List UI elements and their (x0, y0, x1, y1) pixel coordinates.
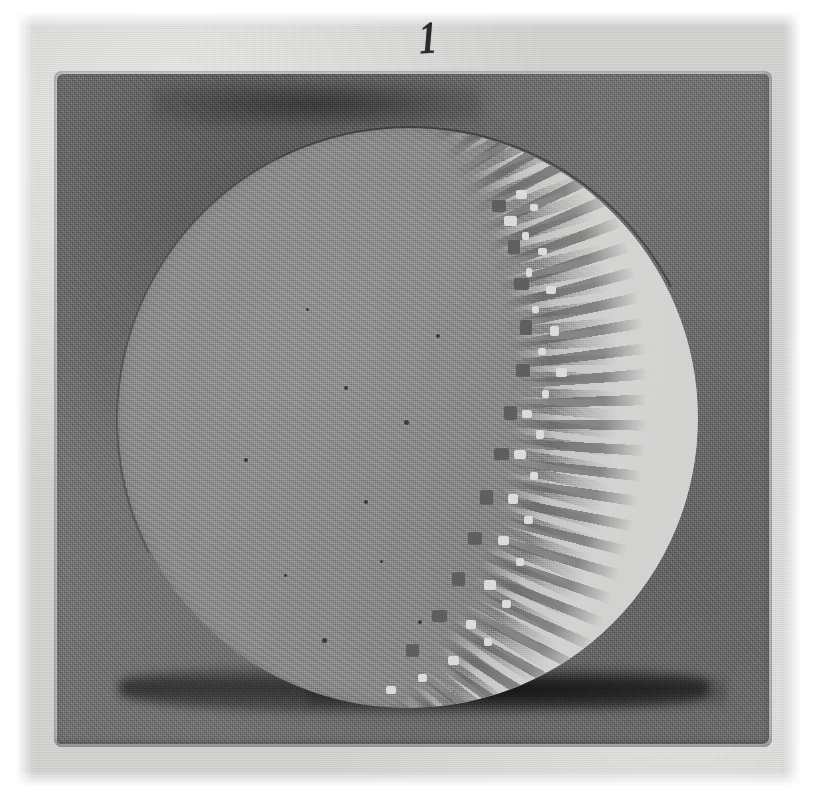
disc-dark-speck (404, 420, 409, 425)
disc-dark-speck (284, 574, 287, 577)
terminator-bright-fleck (516, 190, 527, 199)
terminator-dark-fleck (492, 200, 506, 212)
disc-dark-speck (244, 458, 248, 462)
disc-bright-crescent (118, 128, 698, 708)
disc-terminator-speckle-inner (118, 128, 698, 708)
terminator-bright-fleck (448, 656, 459, 665)
terminator-bright-fleck (522, 232, 529, 240)
terminator-dark-fleck (406, 644, 419, 657)
terminator-bright-fleck (556, 368, 567, 377)
terminator-dark-fleck (520, 320, 532, 335)
terminator-bright-fleck (484, 638, 492, 646)
disc-terminator-speckle (118, 128, 698, 708)
disc-dark-speck (322, 638, 327, 643)
specimen-disc (118, 128, 698, 708)
disc-dark-speck (344, 386, 348, 390)
terminator-bright-fleck (532, 306, 539, 313)
terminator-bright-fleck (538, 248, 547, 255)
terminator-dark-fleck (432, 610, 447, 622)
terminator-bright-fleck (498, 536, 509, 545)
terminator-bright-fleck (550, 326, 559, 336)
terminator-bright-fleck (530, 472, 538, 480)
terminator-dark-fleck (508, 240, 520, 254)
disc-dark-speck (436, 334, 440, 338)
terminator-bright-fleck (542, 390, 549, 398)
terminator-bright-fleck (526, 268, 532, 277)
disc-grain-texture (118, 128, 698, 708)
disc-dark-speck (380, 560, 383, 563)
terminator-dark-fleck (504, 406, 517, 420)
terminator-bright-fleck (502, 600, 511, 608)
plate-upper-left-smudge (152, 82, 482, 126)
figure-number-label: 1 (403, 11, 452, 65)
terminator-bright-fleck (508, 494, 518, 504)
terminator-dark-fleck (452, 572, 465, 586)
terminator-bright-fleck (386, 686, 396, 694)
terminator-dark-fleck (494, 448, 509, 460)
terminator-bright-fleck (514, 450, 526, 459)
disc-dark-speck (418, 620, 422, 624)
disc-dark-speck (306, 308, 309, 311)
terminator-dark-fleck (480, 490, 493, 505)
terminator-bright-fleck (536, 430, 544, 439)
terminator-dark-fleck (516, 364, 530, 377)
terminator-bright-fleck (530, 204, 538, 211)
terminator-bright-fleck (538, 348, 546, 355)
terminator-bright-fleck (546, 286, 556, 294)
terminator-bright-fleck (466, 620, 476, 629)
terminator-bright-fleck (504, 216, 517, 226)
terminator-bright-fleck (516, 558, 524, 566)
figure-page: 1 (0, 0, 817, 798)
terminator-dark-fleck (514, 278, 529, 290)
disc-dark-speck (364, 500, 368, 504)
terminator-bright-fleck (484, 580, 496, 590)
disc-bright-crescent-outer (118, 128, 698, 708)
terminator-dark-fleck (468, 532, 482, 545)
terminator-bright-fleck (524, 516, 533, 524)
terminator-bright-fleck (522, 410, 532, 418)
terminator-bright-fleck (418, 674, 427, 682)
